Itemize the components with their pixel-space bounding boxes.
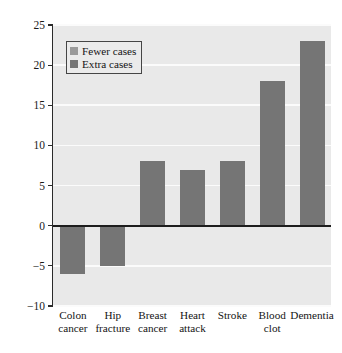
legend-label: Fewer cases — [82, 45, 136, 57]
legend-item: Extra cases — [70, 57, 136, 70]
x-axis-category-label: Heartattack — [179, 309, 206, 335]
x-axis-label-line: clot — [259, 322, 286, 335]
x-axis-category-label: Coloncancer — [58, 309, 87, 335]
y-axis-tick-label: −10 — [27, 300, 45, 312]
y-axis-tick — [48, 265, 53, 266]
legend-swatch — [70, 47, 78, 55]
bar — [60, 226, 85, 274]
x-axis-category-label: Breastcancer — [138, 309, 167, 335]
bar — [220, 161, 245, 225]
x-axis-label-line: Heart — [179, 309, 206, 322]
y-axis-tick — [48, 105, 53, 106]
legend-item: Fewer cases — [70, 44, 136, 57]
x-axis-category-label: Bloodclot — [259, 309, 286, 335]
gridline — [53, 145, 331, 147]
x-axis-label-line: Hip — [95, 309, 130, 322]
plot-area: −10−50510152025 ColoncancerHipfractureBr… — [52, 25, 331, 306]
y-axis-tick — [48, 65, 53, 66]
x-axis-label-line: Breast — [138, 309, 167, 322]
bar — [140, 161, 165, 225]
x-axis-category-label: Dementia — [290, 309, 334, 322]
bar — [260, 81, 285, 226]
y-axis-tick — [48, 305, 53, 306]
y-axis-tick — [48, 24, 53, 25]
x-axis-label-line: Blood — [259, 309, 286, 322]
y-axis-tick-label: 0 — [39, 220, 45, 232]
x-axis-label-line: Dementia — [290, 309, 334, 322]
y-axis-tick-label: 5 — [39, 180, 45, 192]
legend-swatch — [70, 60, 78, 68]
gridline — [53, 24, 331, 26]
y-axis-tick-label: −5 — [33, 260, 45, 272]
bar — [300, 41, 325, 226]
x-axis-category-label: Stroke — [218, 309, 247, 322]
zero-baseline — [53, 225, 331, 227]
y-axis-tick-label: 10 — [34, 139, 46, 151]
x-axis-label-line: cancer — [58, 322, 87, 335]
chart-legend: Fewer casesExtra cases — [66, 41, 142, 74]
y-axis-tick-label: 25 — [34, 19, 46, 31]
gridline — [53, 305, 331, 307]
legend-label: Extra cases — [82, 58, 133, 70]
bar — [100, 226, 125, 266]
y-axis-tick-label: 15 — [34, 99, 46, 111]
x-axis-label-line: attack — [179, 322, 206, 335]
y-axis-tick-label: 20 — [34, 59, 46, 71]
y-axis-tick — [48, 185, 53, 186]
y-axis-tick — [48, 145, 53, 146]
gridline — [53, 265, 331, 267]
x-axis-label-line: cancer — [138, 322, 167, 335]
bar — [180, 170, 205, 226]
x-axis-category-label: Hipfracture — [95, 309, 130, 335]
x-axis-label-line: Stroke — [218, 309, 247, 322]
x-axis-label-line: fracture — [95, 322, 130, 335]
gridline — [53, 104, 331, 106]
x-axis-label-line: Colon — [58, 309, 87, 322]
bar-chart-figure: Predicted number of cases −10−5051015202… — [0, 0, 342, 353]
